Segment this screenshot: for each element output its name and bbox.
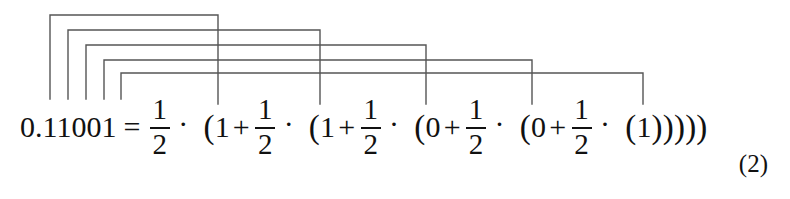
fraction-half-3: 1 2 xyxy=(360,95,381,159)
plus-sign-1: + xyxy=(233,110,250,144)
multiplication-dot-1: · xyxy=(178,107,188,141)
fraction-denominator: 2 xyxy=(360,130,381,160)
fraction-numerator: 1 xyxy=(360,95,381,125)
open-paren-5: ( xyxy=(625,111,636,144)
open-paren-2: ( xyxy=(309,111,320,144)
plus-sign-3: + xyxy=(444,110,461,144)
bracket-connector-1 xyxy=(50,15,218,104)
multiplication-dot-5: · xyxy=(600,107,610,141)
open-paren-3: ( xyxy=(414,111,425,144)
fraction-half-4: 1 2 xyxy=(466,95,487,159)
fraction-half-1: 1 2 xyxy=(150,95,171,159)
fraction-denominator: 2 xyxy=(466,130,487,160)
plus-sign-2: + xyxy=(338,110,355,144)
multiplication-dot-4: · xyxy=(495,107,505,141)
plus-sign-4: + xyxy=(549,110,566,144)
digit-term-4: 0 xyxy=(531,110,546,144)
fraction-denominator: 2 xyxy=(571,130,592,160)
equals-sign: = xyxy=(123,110,140,144)
open-paren-4: ( xyxy=(520,111,531,144)
fraction-denominator: 2 xyxy=(150,130,171,160)
fraction-numerator: 1 xyxy=(150,95,171,125)
equation-line: 0.11001 = 1 2 · ( 1 + 1 2 · ( 1 + 1 2 · xyxy=(20,96,708,158)
fraction-numerator: 1 xyxy=(255,95,276,125)
binary-number-lhs: 0.11001 xyxy=(20,110,116,144)
digit-term-1: 1 xyxy=(215,110,230,144)
multiplication-dot-2: · xyxy=(284,107,294,141)
fraction-half-2: 1 2 xyxy=(255,95,276,159)
fraction-denominator: 2 xyxy=(255,130,276,160)
digit-term-5: 1 xyxy=(636,110,651,144)
fraction-numerator: 1 xyxy=(571,95,592,125)
fraction-numerator: 1 xyxy=(466,95,487,125)
bracket-connector-2 xyxy=(68,30,320,104)
open-paren-1: ( xyxy=(203,111,214,144)
digit-term-3: 0 xyxy=(426,110,441,144)
equation-number: (2) xyxy=(739,150,768,178)
closing-parens-group: ))))) xyxy=(652,111,708,144)
equation-figure: 0.11001 = 1 2 · ( 1 + 1 2 · ( 1 + 1 2 · xyxy=(0,0,790,199)
digit-term-2: 1 xyxy=(320,110,335,144)
fraction-half-5: 1 2 xyxy=(571,95,592,159)
multiplication-dot-3: · xyxy=(389,107,399,141)
